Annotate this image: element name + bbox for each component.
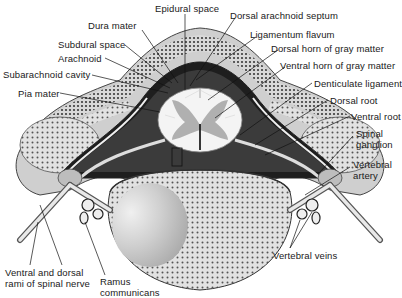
label-ventral-dorsal-rami: Ventral and dorsal rami of spinal nerve [5,267,90,289]
label-denticulate-ligament: Denticulate ligament [314,78,402,89]
label-dura-mater: Dura mater [88,20,137,31]
label-dorsal-horn: Dorsal horn of gray matter [271,43,384,54]
label-subdural-space: Subdural space [58,39,125,50]
label-spinal-ganglion: Spinal ganglion [356,128,393,150]
label-ventral-horn: Ventral horn of gray matter [280,60,395,71]
label-vertebral-veins: Vertebral veins [273,250,337,261]
label-vertebral-artery: Vertebral artery [353,159,392,181]
label-epidural-space: Epidural space [155,3,219,14]
label-dorsal-root: Dorsal root [330,95,378,106]
label-ramus-communicans: Ramus communicans [100,276,160,298]
label-arachnoid: Arachnoid [58,53,102,64]
label-ligamentum-flavum: Ligamentum flavum [250,29,335,40]
label-dorsal-arachnoid-septum: Dorsal arachnoid septum [230,10,338,21]
label-ventral-root: Ventral root [351,111,401,122]
label-pia-mater: Pia mater [18,88,60,99]
label-subarachnoid-cavity: Subarachnoid cavity [3,69,90,80]
